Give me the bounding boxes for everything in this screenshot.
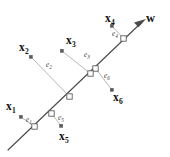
data-point-label-x1-sub: 1 — [12, 106, 16, 115]
data-point-marker-x1 — [19, 115, 22, 118]
data-point-label-x4-text: x — [105, 12, 111, 24]
data-point-label-x6: x6 — [113, 92, 123, 104]
projection-marker-x2 — [67, 94, 72, 99]
residual-label-e2: e2 — [46, 62, 52, 69]
data-point-label-x3: x3 — [66, 35, 76, 47]
projection-marker-x3 — [88, 71, 93, 76]
residual-label-e3-sub: 3 — [87, 54, 90, 60]
data-point-label-x5: x5 — [59, 131, 69, 143]
projection-marker-x4 — [121, 36, 126, 41]
data-point-label-x4: x4 — [105, 13, 115, 25]
data-point-marker-x3 — [60, 49, 63, 52]
data-point-label-x5-text: x — [59, 130, 65, 142]
data-point-label-x3-sub: 3 — [72, 40, 76, 49]
data-point-label-x3-text: x — [66, 34, 72, 46]
residual-label-e5: e5 — [58, 115, 64, 122]
data-point-label-x4-sub: 4 — [111, 18, 115, 27]
residual-label-e5-sub: 5 — [61, 117, 64, 123]
data-point-label-x6-sub: 6 — [119, 97, 123, 106]
data-point-label-x2: x2 — [19, 42, 29, 54]
principal-axis-label: w — [146, 12, 155, 25]
projection-diagram: w x1 x2 x3 x4 x5 x6 e1 e2 e3 e4 e5 e6 — [0, 0, 170, 157]
residual-label-e3: e3 — [84, 52, 90, 59]
residual-label-e4-sub: 4 — [115, 33, 118, 39]
arrow-head-icon — [134, 19, 146, 27]
residual-label-e6: e6 — [104, 73, 110, 80]
data-point-marker-x2 — [29, 55, 32, 58]
residual-label-e1-sub: 1 — [29, 119, 32, 125]
diagram-canvas — [0, 0, 170, 157]
residual-label-e4: e4 — [112, 31, 118, 38]
projection-marker-x1 — [32, 124, 37, 129]
projection-marker-x5 — [49, 111, 54, 116]
residual-label-e6-sub: 6 — [107, 75, 110, 81]
data-point-label-x6-text: x — [113, 91, 119, 103]
data-point-marker-x5 — [60, 124, 63, 127]
data-point-label-x2-text: x — [19, 41, 25, 53]
data-point-label-x5-sub: 5 — [65, 136, 69, 145]
residual-label-e1: e1 — [26, 117, 32, 124]
data-point-label-x1-text: x — [6, 100, 12, 112]
residual-label-e2-sub: 2 — [49, 64, 52, 70]
data-point-label-x1: x1 — [6, 101, 16, 113]
data-point-label-x2-sub: 2 — [25, 47, 29, 56]
